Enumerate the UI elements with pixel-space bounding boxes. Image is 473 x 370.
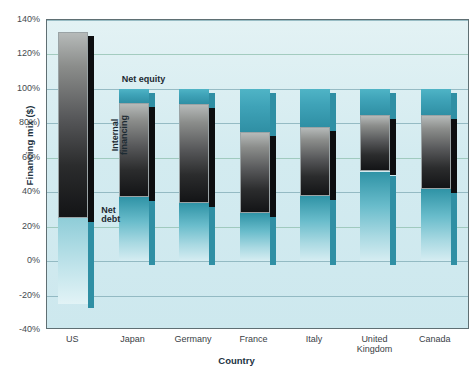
bar-shadow-equity <box>330 93 336 131</box>
bar-shadow-internal <box>270 136 276 217</box>
y-tick-label: 40% <box>0 186 40 196</box>
annotation-internal-financing: Internal financing <box>111 98 130 172</box>
bar-shadow-internal <box>390 119 396 176</box>
segment-net-equity[interactable] <box>360 89 390 115</box>
segment-net-equity[interactable] <box>300 89 330 127</box>
y-axis-title: Financing mix ($) <box>24 71 35 221</box>
y-tick-label: -20% <box>0 290 40 300</box>
bar-shadow-equity <box>149 93 155 107</box>
bar-shadow-equity <box>451 93 457 119</box>
y-tick-label: 20% <box>0 221 40 231</box>
bar-group[interactable] <box>58 20 88 329</box>
financing-mix-chart: Financing mix ($) 140%120%100%80%)60%40%… <box>0 0 473 370</box>
segment-internal-financing[interactable] <box>179 104 209 202</box>
segment-net-debt[interactable] <box>119 197 149 261</box>
x-axis-title: Country <box>0 355 473 366</box>
segment-internal-financing[interactable] <box>300 127 330 196</box>
bar-group[interactable] <box>179 20 209 329</box>
bar-shadow-debt <box>390 176 396 266</box>
segment-net-equity[interactable] <box>240 89 270 132</box>
bar-shadow-debt <box>209 207 215 266</box>
bar-shadow-debt <box>149 201 155 265</box>
bar-group[interactable] <box>421 20 451 329</box>
bar-group[interactable] <box>300 20 330 329</box>
plot-area: Net equity Internal financing Net debt <box>46 19 469 329</box>
segment-net-equity[interactable] <box>421 89 451 115</box>
bar-shadow-internal <box>451 119 457 193</box>
bar-group[interactable] <box>360 20 390 329</box>
segment-net-debt[interactable] <box>421 189 451 261</box>
y-tick-label: 100% <box>0 83 40 93</box>
y-tick-label: 80%) <box>0 117 40 127</box>
bar-shadow-internal <box>330 131 336 200</box>
y-tick-label: 0% <box>0 255 40 265</box>
bar-shadow-debt <box>451 193 457 265</box>
segment-net-debt[interactable] <box>300 196 330 261</box>
segment-net-debt[interactable] <box>179 203 209 262</box>
bar-shadow-debt <box>330 200 336 265</box>
bar-group[interactable] <box>240 20 270 329</box>
x-tick-label: Italy <box>279 334 349 344</box>
y-tick-label: 60% <box>0 152 40 162</box>
segment-internal-financing[interactable] <box>421 115 451 189</box>
y-tick-label: -40% <box>0 324 40 334</box>
bar-shadow-internal <box>88 36 94 222</box>
segment-net-debt[interactable] <box>360 172 390 262</box>
x-tick-label: Canada <box>400 334 470 344</box>
segment-internal-financing[interactable] <box>58 32 88 218</box>
bar-shadow-equity <box>390 93 396 119</box>
bar-shadow-equity <box>270 93 276 136</box>
bar-shadow-internal <box>149 107 155 202</box>
segment-internal-financing[interactable] <box>360 115 390 172</box>
bar-shadow-internal <box>209 108 215 206</box>
y-tick-label: 120% <box>0 48 40 58</box>
segment-net-equity[interactable] <box>179 89 209 105</box>
bar-group[interactable] <box>119 20 149 329</box>
segment-net-debt[interactable] <box>240 213 270 261</box>
annotation-net-equity: Net equity <box>122 75 166 84</box>
bar-shadow-equity <box>209 93 215 109</box>
x-tick-label: Japan <box>98 334 168 344</box>
annotation-net-debt: Net debt <box>101 206 120 225</box>
bar-shadow-debt <box>88 222 94 308</box>
segment-internal-financing[interactable] <box>240 132 270 213</box>
bar-shadow-debt <box>270 217 276 265</box>
segment-net-debt[interactable] <box>58 218 88 304</box>
y-tick-label: 140% <box>0 14 40 24</box>
